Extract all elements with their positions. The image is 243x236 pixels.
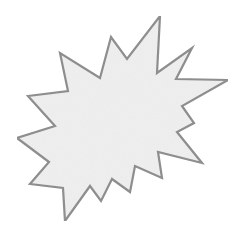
starburst-graphic bbox=[0, 0, 243, 236]
canvas bbox=[0, 0, 243, 236]
starburst-shape bbox=[17, 16, 228, 221]
